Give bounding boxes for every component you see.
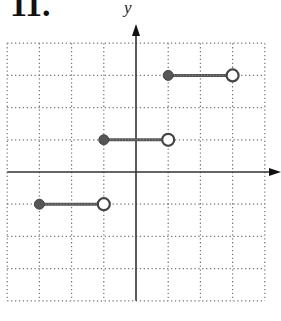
y-axis-arrow-icon: [132, 24, 140, 36]
open-endpoint-icon: [227, 69, 239, 81]
closed-endpoint-icon: [34, 199, 44, 209]
x-axis-arrow-icon: [269, 168, 281, 176]
step-function-plot: [0, 0, 281, 321]
closed-endpoint-icon: [163, 70, 173, 80]
open-endpoint-icon: [98, 198, 110, 210]
open-endpoint-icon: [162, 134, 174, 146]
closed-endpoint-icon: [99, 135, 109, 145]
